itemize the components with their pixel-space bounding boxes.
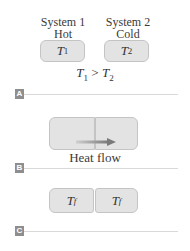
- relation-right-sub: 2: [109, 73, 114, 83]
- panel-a-badge: A: [15, 89, 24, 99]
- tf-right-symbol: T: [112, 193, 119, 209]
- tf-left-symbol: T: [67, 193, 74, 209]
- system2-label: System 2 Cold: [103, 16, 153, 40]
- system1-box: T1: [40, 40, 85, 62]
- heat-flow-caption: Heat flow: [60, 152, 130, 164]
- temperature-relation: T1 > T2: [60, 65, 130, 83]
- system2-box: T2: [104, 40, 149, 62]
- t1-symbol: T: [57, 43, 64, 59]
- relation-left: T: [76, 65, 83, 80]
- system2-state: Cold: [103, 28, 153, 40]
- relation-operator: >: [88, 65, 102, 80]
- panel-c-badge: C: [15, 226, 24, 236]
- panel-b-divider: [24, 168, 178, 169]
- system1-state: Hot: [38, 28, 88, 40]
- panel-b-badge: B: [15, 163, 24, 173]
- t1-sub: 1: [64, 46, 69, 56]
- final-box-right: Tf: [95, 188, 138, 213]
- t2-sub: 2: [128, 46, 133, 56]
- panel-a-divider: [24, 94, 178, 95]
- tf-right-sub: f: [119, 196, 122, 206]
- t2-symbol: T: [121, 43, 128, 59]
- system1-label: System 1 Hot: [38, 16, 88, 40]
- tf-left-sub: f: [74, 196, 77, 206]
- panel-c-divider: [24, 231, 178, 232]
- final-box-left: Tf: [49, 188, 94, 213]
- heat-flow-arrow-icon: [76, 138, 116, 146]
